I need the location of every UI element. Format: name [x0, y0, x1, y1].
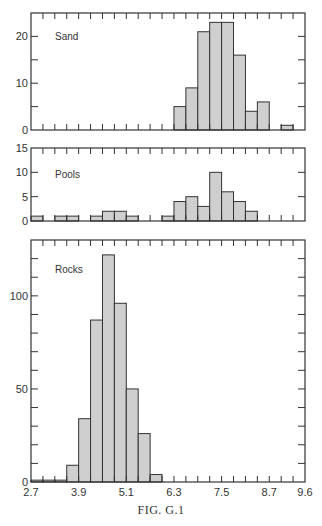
y-tick-label: 50 — [16, 383, 28, 395]
axes-frame — [31, 240, 305, 482]
histogram-bar — [114, 211, 126, 221]
histogram-bar — [198, 32, 210, 130]
y-tick-label: 0 — [22, 124, 28, 136]
histogram-bar — [67, 465, 79, 482]
histogram-bar — [245, 211, 257, 221]
panel-sand: 01020Sand — [16, 13, 305, 136]
histogram-bar — [198, 206, 210, 221]
figure-caption: FIG. G.1 — [0, 503, 322, 518]
histogram-bar — [174, 202, 186, 221]
histogram-bar — [150, 475, 162, 482]
histogram-bar — [245, 111, 257, 130]
histogram-bar — [55, 216, 67, 221]
y-tick-label: 5 — [22, 191, 28, 203]
y-tick-label: 10 — [16, 77, 28, 89]
x-tick-label: 8.7 — [262, 486, 277, 498]
histogram-bar — [91, 216, 103, 221]
histogram-bar — [234, 55, 246, 130]
axes-frame — [31, 148, 305, 221]
histogram-bar — [102, 211, 114, 221]
panel-pools: 051015Pools — [16, 142, 305, 227]
histogram-bar — [210, 172, 222, 221]
panel-label: Pools — [55, 169, 80, 180]
histogram-figure: 01020Sand051015Pools050100Rocks2.73.95.1… — [0, 0, 322, 526]
histogram-bar — [31, 216, 43, 221]
y-tick-label: 20 — [16, 30, 28, 42]
histogram-bar — [234, 202, 246, 221]
histogram-bar — [79, 419, 91, 482]
histogram-bar — [210, 22, 222, 130]
histogram-bar — [257, 102, 269, 130]
y-tick-label: 0 — [22, 215, 28, 227]
histogram-bar — [174, 107, 186, 130]
histogram-bar — [186, 88, 198, 130]
histogram-bar — [222, 192, 234, 221]
histogram-bar — [162, 216, 174, 221]
x-tick-label: 2.7 — [23, 486, 38, 498]
x-tick-label: 7.5 — [214, 486, 229, 498]
panel-label: Sand — [55, 31, 78, 42]
histogram-bar — [222, 22, 234, 130]
y-tick-label: 10 — [16, 166, 28, 178]
histogram-bar — [114, 303, 126, 482]
histogram-bar — [102, 255, 114, 482]
x-tick-label: 9.6 — [297, 486, 312, 498]
histogram-bar — [126, 216, 138, 221]
panel-rocks: 050100Rocks — [10, 240, 305, 488]
panel-label: Rocks — [55, 264, 83, 275]
histogram-bar — [67, 216, 79, 221]
x-tick-label: 6.3 — [166, 486, 181, 498]
histogram-bar — [186, 197, 198, 221]
y-tick-label: 100 — [10, 290, 28, 302]
histogram-bar — [138, 434, 150, 482]
y-tick-label: 15 — [16, 142, 28, 154]
histogram-bar — [281, 125, 293, 130]
histogram-bar — [91, 320, 103, 482]
histogram-bar — [126, 389, 138, 482]
x-tick-label: 3.9 — [71, 486, 86, 498]
x-tick-label: 5.1 — [119, 486, 134, 498]
